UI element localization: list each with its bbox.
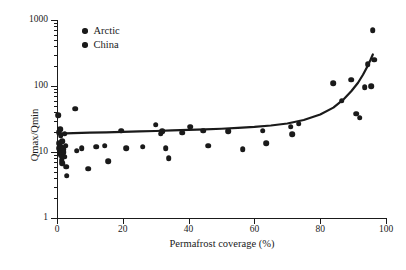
y-tick-minor	[54, 92, 57, 93]
data-point	[79, 145, 85, 151]
data-point	[288, 124, 294, 130]
x-axis-title: Permafrost coverage (%)	[57, 238, 387, 249]
data-point	[72, 106, 78, 112]
y-tick-minor	[54, 172, 57, 173]
y-tick-minor	[54, 40, 57, 41]
chart-legend: Arctic China	[82, 24, 120, 52]
data-point	[140, 144, 146, 150]
x-tick-label: 40	[184, 225, 194, 235]
data-point	[263, 141, 269, 147]
y-tick-label: 10	[39, 147, 49, 157]
data-point	[365, 61, 371, 67]
y-tick-minor	[54, 167, 57, 168]
y-tick-minor	[54, 158, 57, 159]
data-point	[187, 124, 193, 130]
data-point	[201, 128, 207, 134]
data-point	[349, 77, 355, 83]
data-point	[105, 159, 111, 165]
data-point	[362, 85, 368, 91]
y-axis-title: Qmax/Qmin	[29, 109, 40, 162]
y-tick-minor	[54, 112, 57, 113]
data-point	[339, 98, 345, 104]
y-tick-minor	[54, 30, 57, 31]
data-point	[260, 128, 266, 134]
scatter-chart-figure: 1101001000 020406080100 Qmax/Qmin Permaf…	[0, 0, 406, 270]
data-point	[225, 129, 231, 135]
x-tick-label: 0	[55, 225, 60, 235]
legend-item-arctic: Arctic	[82, 24, 120, 38]
y-tick-minor	[54, 23, 57, 24]
x-axis-line	[57, 218, 387, 219]
y-tick-minor	[54, 96, 57, 97]
data-point	[56, 112, 62, 118]
data-point	[370, 27, 376, 33]
data-point	[163, 145, 169, 151]
data-point	[123, 145, 129, 151]
x-tick-label: 100	[379, 225, 393, 235]
y-tick-minor	[54, 101, 57, 102]
data-point	[85, 166, 91, 172]
data-point	[61, 154, 67, 160]
data-point	[357, 115, 363, 121]
data-point	[296, 121, 302, 127]
legend-label: Arctic	[94, 26, 120, 37]
y-tick-minor	[54, 121, 57, 122]
data-point	[118, 128, 124, 134]
legend-label: China	[94, 40, 119, 51]
y-tick-minor	[54, 106, 57, 107]
legend-item-china: China	[82, 38, 120, 52]
legend-marker-icon	[82, 42, 88, 48]
y-tick-minor	[54, 55, 57, 56]
data-point	[368, 83, 374, 89]
y-tick-label: 1000	[29, 15, 48, 25]
data-point	[64, 173, 70, 179]
data-point	[166, 156, 172, 162]
y-tick-major	[51, 152, 57, 153]
y-tick-label: 100	[34, 81, 48, 91]
data-point	[63, 143, 69, 149]
y-tick-minor	[54, 155, 57, 156]
y-tick-minor	[54, 46, 57, 47]
x-tick-label: 60	[250, 225, 260, 235]
x-tick-label: 20	[118, 225, 128, 235]
y-tick-minor	[54, 89, 57, 90]
data-point	[289, 132, 295, 138]
y-tick-minor	[54, 35, 57, 36]
y-tick-major	[51, 20, 57, 21]
data-point	[331, 80, 337, 86]
y-tick-minor	[54, 66, 57, 67]
legend-marker-icon	[82, 28, 88, 34]
y-tick-minor	[54, 26, 57, 27]
y-tick-minor	[54, 198, 57, 199]
y-tick-label: 1	[43, 213, 48, 223]
data-point	[206, 143, 212, 149]
data-point	[240, 146, 246, 152]
data-point	[372, 57, 378, 63]
data-point	[63, 164, 69, 170]
data-point	[153, 122, 159, 128]
data-point	[179, 130, 185, 136]
data-point	[102, 143, 108, 149]
data-point	[62, 131, 68, 137]
y-tick-major	[51, 86, 57, 87]
x-tick-label: 80	[315, 225, 325, 235]
y-tick-minor	[54, 162, 57, 163]
y-tick-minor	[54, 178, 57, 179]
data-point	[94, 144, 100, 150]
y-tick-minor	[54, 187, 57, 188]
data-point	[159, 129, 165, 135]
y-tick-minor	[54, 132, 57, 133]
